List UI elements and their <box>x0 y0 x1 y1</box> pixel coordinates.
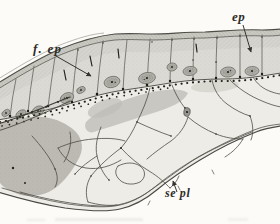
shade-speck <box>12 167 14 169</box>
label-f-ep: f. ep <box>33 41 62 56</box>
label-se-pl: se pl <box>164 186 190 200</box>
shade-speck <box>24 182 26 184</box>
histology-illustration: f. ep ep se pl <box>0 0 280 224</box>
label-ep: ep <box>232 9 245 24</box>
figure-plate: f. ep ep se pl <box>0 0 280 224</box>
